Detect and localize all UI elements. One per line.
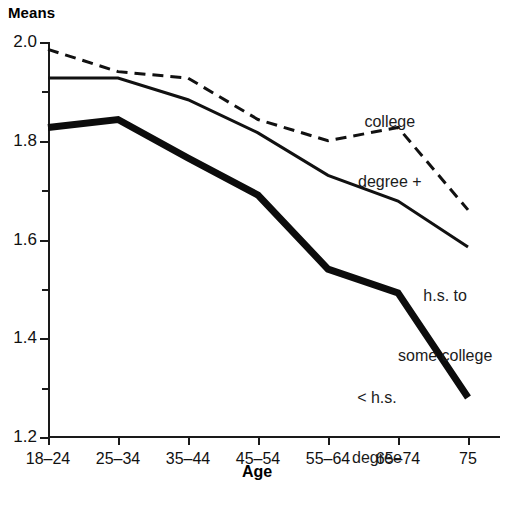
series-label-less-than-hs-degree-line1: < h.s. [352,388,402,408]
series-label-college-degree: college degree + [358,72,422,232]
x-axis-title: Age [0,463,514,481]
series-label-college-degree-line1: college [358,112,422,132]
series-label-hs-to-some-college-line2: some college [398,346,492,366]
series-label-college-degree-line2: degree + [358,172,422,192]
series-label-less-than-hs-degree: < h.s. degree [352,348,402,507]
series-label-hs-to-some-college: h.s. to some college [398,246,492,406]
series-label-hs-to-some-college-line1: h.s. to [398,286,492,306]
chart-figure: Means 2.01.81.61.41.2 18–2425–3435–4445–… [0,0,514,507]
